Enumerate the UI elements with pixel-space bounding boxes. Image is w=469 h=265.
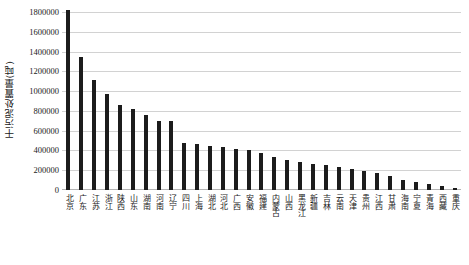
x-axis-category-label: 河北	[219, 194, 227, 209]
x-axis-category-label: 青海	[425, 194, 433, 209]
bar-slot	[216, 12, 229, 190]
y-axis-tick-label: 1600000	[29, 28, 59, 37]
x-axis-category-label: 浙江	[103, 194, 111, 209]
x-axis-category-label: 黑龙江	[296, 194, 304, 217]
bar	[401, 180, 405, 190]
x-axis-category-label: 广西	[232, 194, 240, 209]
x-axis-category-label: 河南	[155, 194, 163, 209]
bar	[350, 169, 354, 190]
x-axis-category-label: 宁夏	[412, 194, 420, 209]
x-axis-category-label: 陕西	[116, 194, 124, 209]
x-axis-category-label: 新疆	[309, 194, 317, 209]
x-axis-category-label: 吉林	[322, 194, 330, 209]
x-axis-category-label: 四川	[180, 194, 188, 209]
bar	[182, 143, 186, 190]
bar	[144, 115, 148, 190]
bar-slot	[384, 12, 397, 190]
bar	[66, 10, 70, 190]
bar-slot	[191, 12, 204, 190]
x-axis-category-label: 山东	[129, 194, 137, 209]
bar	[337, 167, 341, 190]
bar	[79, 57, 83, 191]
bar-slot	[152, 12, 165, 190]
x-axis-category-label: 内蒙古	[270, 194, 278, 217]
bar	[362, 171, 366, 190]
bar	[311, 164, 315, 190]
y-axis-tick-label: 1000000	[29, 87, 59, 96]
bar-slot	[435, 12, 448, 190]
bar-slot	[88, 12, 101, 190]
bar-slot	[268, 12, 281, 190]
x-axis-category-label: 海南	[399, 194, 407, 209]
bar-slot	[165, 12, 178, 190]
x-axis-category-label: 安徽	[245, 194, 253, 209]
x-axis-category-label: 江西	[373, 194, 381, 209]
bar	[388, 176, 392, 190]
sludge-disposal-bar-chart: 干污泥处置量(吨) 180000016000001400000120000010…	[0, 0, 469, 265]
bar-slot	[101, 12, 114, 190]
y-axis-tick-labels: 1800000160000014000001200000100000080000…	[18, 0, 62, 202]
x-axis-category-label: 甘肃	[386, 194, 394, 209]
bar-slot	[281, 12, 294, 190]
y-axis-tick-label: 1400000	[29, 47, 59, 56]
bar	[440, 186, 444, 190]
bar	[324, 165, 328, 190]
x-axis-category-label: 湖南	[142, 194, 150, 209]
bar	[131, 109, 135, 190]
x-axis-category-label: 山西	[283, 194, 291, 209]
bar-slot	[62, 12, 75, 190]
x-axis-category-label: 天津	[348, 194, 356, 209]
bar-slot	[422, 12, 435, 190]
y-axis-title: 干污泥处置量(吨)	[0, 0, 20, 200]
y-axis-tick-label: 600000	[34, 126, 60, 135]
x-axis-category-label: 辽宁	[167, 194, 175, 209]
bar	[105, 94, 109, 190]
bar	[234, 149, 238, 190]
bar-slot	[319, 12, 332, 190]
bar	[414, 182, 418, 190]
y-axis-tick-label: 400000	[34, 146, 60, 155]
bar	[118, 105, 122, 190]
y-axis-tick-label: 1200000	[29, 67, 59, 76]
x-axis-category-label: 福建	[258, 194, 266, 209]
bar-slot	[332, 12, 345, 190]
bar-slot	[178, 12, 191, 190]
bar-slot	[75, 12, 88, 190]
bar	[92, 80, 96, 190]
x-axis-category-label: 江苏	[90, 194, 98, 209]
bar	[285, 160, 289, 190]
y-axis-tick-label: 1800000	[29, 8, 59, 17]
bars-layer	[62, 12, 461, 190]
bar-slot	[294, 12, 307, 190]
x-axis-category-label: 贵州	[360, 194, 368, 209]
bar-slot	[229, 12, 242, 190]
bar-slot	[448, 12, 461, 190]
y-axis-title-text: 干污泥处置量(吨)	[3, 61, 17, 138]
bar-slot	[139, 12, 152, 190]
y-axis-tick-label: 0	[55, 186, 59, 195]
bar-slot	[358, 12, 371, 190]
bar	[259, 153, 263, 190]
bar	[453, 188, 457, 190]
bar	[221, 147, 225, 190]
bar-slot	[113, 12, 126, 190]
plot-area	[62, 12, 461, 190]
bar-slot	[204, 12, 217, 190]
bar	[427, 184, 431, 190]
bar	[195, 144, 199, 190]
x-axis-category-label: 湖北	[206, 194, 214, 209]
bar-slot	[397, 12, 410, 190]
bar	[208, 146, 212, 191]
x-axis-category-label: 广东	[77, 194, 85, 209]
x-axis-category-label: 重庆	[451, 194, 459, 209]
bar	[375, 173, 379, 190]
y-axis-tick-label: 800000	[34, 107, 60, 116]
bar	[298, 162, 302, 190]
bar-slot	[410, 12, 423, 190]
bar	[272, 157, 276, 190]
x-axis-category-label: 西藏	[438, 194, 446, 209]
y-axis-tick-label: 200000	[34, 166, 60, 175]
bar-slot	[345, 12, 358, 190]
x-axis-category-label: 云南	[335, 194, 343, 209]
bar-slot	[307, 12, 320, 190]
